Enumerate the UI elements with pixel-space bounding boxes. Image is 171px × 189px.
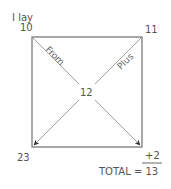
plus-label: Plus [115, 51, 135, 71]
total-label: TOTAL = 13 [99, 166, 158, 177]
top-left-value: 10 [20, 22, 33, 33]
plus-diagonal-lower-arrow [34, 100, 79, 145]
from-label: From [44, 44, 67, 67]
bottom-left-value: 23 [17, 152, 30, 163]
addend-value: +2 [145, 150, 160, 161]
from-diagonal-lower-arrow [95, 100, 140, 145]
top-right-value: 11 [145, 24, 158, 35]
center-value: 12 [80, 87, 93, 98]
